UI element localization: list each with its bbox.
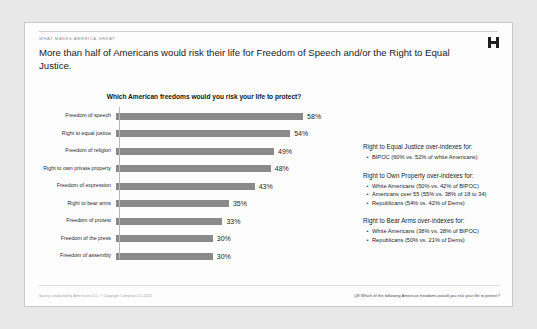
insight-item-text: BIPOC (60% vs. 52% of white Americans) [372, 153, 478, 162]
slide-card: WHAT MAKES AMERICA GREAT More than half … [24, 22, 513, 307]
insights-panel: Right to Equal Justice over-indexes for:… [363, 143, 505, 254]
bar-track: 30% [116, 249, 345, 263]
bar-row: Freedom of expression43% [33, 179, 345, 193]
insight-item-text: White Americans (38% vs. 28% of BIPOC) [372, 227, 479, 236]
insight-group: Right to Equal Justice over-indexes for:… [363, 143, 505, 162]
bar-value-label: 49% [278, 148, 292, 155]
insight-heading: Right to Equal Justice over-indexes for: [363, 143, 505, 152]
insight-item-text: White Americans (50% vs. 42% of BIPOC) [372, 182, 479, 191]
bar-value-label: 58% [307, 113, 321, 120]
bar-category-label: Right to own private property [33, 166, 116, 172]
insight-heading: Right to Bear Arms over-indexes for: [363, 217, 505, 226]
bar-value-label: 30% [217, 253, 231, 260]
bar-category-label: Freedom of the press [33, 236, 116, 242]
bar-track: 33% [116, 214, 345, 228]
bar-row: Freedom of assembly30% [33, 249, 345, 263]
chart-plot-area: Freedom of speech58%Right to equal justi… [33, 109, 345, 263]
bar-track: 49% [116, 144, 345, 158]
list-item: •BIPOC (60% vs. 52% of white Americans) [363, 153, 505, 162]
bar-chart: Which American freedoms would you risk y… [33, 89, 345, 280]
slide-footer: Survey conducted by Americans LLC. © Cop… [39, 293, 500, 298]
bar-track: 48% [116, 162, 345, 176]
insight-item-text: Americans over 55 (55% vs. 38% of 18 to … [372, 190, 486, 199]
bullet-icon: • [363, 199, 372, 208]
bar-row: Freedom of protest33% [33, 214, 345, 228]
slide-body: Which American freedoms would you risk y… [25, 89, 512, 280]
insight-group: Right to Own Property over-indexes for:•… [363, 172, 505, 208]
bar-fill [116, 183, 255, 190]
bar-value-label: 35% [233, 200, 247, 207]
bar-track: 35% [116, 197, 345, 211]
list-item: •Republicans (54% vs. 42% of Dems) [363, 199, 505, 208]
bar-category-label: Freedom of expression [33, 183, 116, 189]
bullet-icon: • [363, 190, 372, 199]
footer-source-text: Survey conducted by Americans LLC. © Cop… [39, 294, 152, 298]
footer-question-text: Q8 Which of the following American freed… [354, 293, 500, 298]
list-item: •White Americans (50% vs. 42% of BIPOC) [363, 182, 505, 191]
bar-category-label: Freedom of protest [33, 218, 116, 224]
bar-row: Freedom of religion49% [33, 144, 345, 158]
bar-value-label: 33% [226, 218, 240, 225]
brand-mark-right-bar [496, 37, 499, 48]
bar-fill [116, 148, 274, 155]
list-item: •Americans over 55 (55% vs. 38% of 18 to… [363, 190, 505, 199]
bar-fill [116, 253, 213, 260]
eyebrow-label: WHAT MAKES AMERICA GREAT [39, 36, 498, 41]
bar-row: Freedom of speech58% [33, 109, 345, 123]
bar-category-label: Freedom of speech [33, 113, 116, 119]
bullet-icon: • [363, 182, 372, 191]
bullet-icon: • [363, 227, 372, 236]
bullet-icon: • [363, 236, 372, 245]
insight-item-text: Republicans (50% vs. 21% of Dems) [372, 236, 465, 245]
bar-fill [116, 200, 229, 207]
bar-value-label: 54% [294, 130, 308, 137]
bar-row: Right to own private property48% [33, 162, 345, 176]
slide-header: WHAT MAKES AMERICA GREAT More than half … [39, 31, 498, 73]
bar-fill [116, 218, 222, 225]
bar-value-label: 48% [275, 165, 289, 172]
bar-fill [116, 165, 271, 172]
bullet-icon: • [363, 153, 372, 162]
insight-group: Right to Bear Arms over-indexes for:•Whi… [363, 217, 505, 244]
list-item: •White Americans (38% vs. 28% of BIPOC) [363, 227, 505, 236]
bar-category-label: Right to bear arms [33, 201, 116, 207]
bar-category-label: Freedom of assembly [33, 253, 116, 259]
bar-track: 54% [116, 127, 345, 141]
category-axis-line [119, 107, 120, 259]
header-divider [39, 31, 498, 32]
bar-track: 58% [116, 109, 345, 123]
bar-fill [116, 130, 290, 137]
page-title: More than half of Americans would risk t… [39, 46, 469, 72]
bar-track: 30% [116, 232, 345, 246]
bar-category-label: Right to equal justice [33, 131, 116, 137]
bar-fill [116, 235, 213, 242]
insight-item-text: Republicans (54% vs. 42% of Dems) [372, 199, 465, 208]
bar-fill [116, 113, 303, 120]
bar-row: Freedom of the press30% [33, 232, 345, 246]
bar-value-label: 43% [259, 183, 273, 190]
bar-track: 43% [116, 179, 345, 193]
bar-value-label: 30% [217, 235, 231, 242]
bar-row: Right to bear arms35% [33, 197, 345, 211]
brand-mark-icon [487, 36, 500, 48]
bar-row-list: Freedom of speech58%Right to equal justi… [33, 109, 345, 263]
bar-row: Right to equal justice54% [33, 127, 345, 141]
bar-category-label: Freedom of religion [33, 148, 116, 154]
list-item: •Republicans (50% vs. 21% of Dems) [363, 236, 505, 245]
chart-title: Which American freedoms would you risk y… [33, 93, 345, 100]
insight-heading: Right to Own Property over-indexes for: [363, 172, 505, 181]
footer-divider [39, 285, 500, 286]
